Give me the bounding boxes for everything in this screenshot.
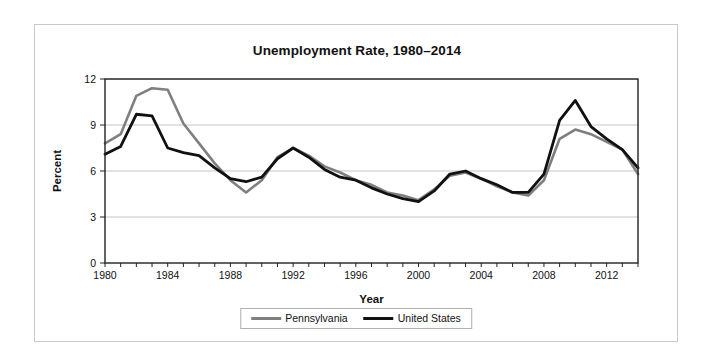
gridlines [105, 79, 638, 217]
legend-swatch-pennsylvania [251, 317, 281, 320]
y-tick-label: 0 [90, 257, 96, 269]
y-tick-label: 6 [90, 165, 96, 177]
y-axis-label: Percent [51, 150, 63, 192]
y-tick-label: 9 [90, 119, 96, 131]
line-chart: 036912 198019841988199219962000200420082… [35, 25, 679, 343]
legend-item-pennsylvania[interactable]: Pennsylvania [251, 312, 347, 324]
x-tick-label: 1984 [156, 269, 180, 281]
x-axis-label: Year [359, 293, 384, 305]
y-tick-label: 3 [90, 211, 96, 223]
y-tick-label: 12 [84, 73, 96, 85]
x-tick-label: 2008 [532, 269, 556, 281]
x-axis-ticks: 198019841988199219962000200420082012 [93, 263, 638, 281]
legend-label-united-states: United States [398, 312, 461, 324]
plot-area: 036912 198019841988199219962000200420082… [35, 25, 679, 343]
x-tick-label: 2000 [407, 269, 431, 281]
x-tick-label: 1992 [281, 269, 305, 281]
series-lines [105, 88, 638, 201]
legend-label-pennsylvania: Pennsylvania [285, 312, 347, 324]
x-tick-label: 1988 [219, 269, 243, 281]
chart-legend: Pennsylvania United States [240, 308, 472, 329]
legend-swatch-united-states [364, 317, 394, 320]
x-tick-label: 2004 [470, 269, 494, 281]
legend-item-united-states[interactable]: United States [364, 312, 461, 324]
x-tick-label: 1980 [93, 269, 117, 281]
x-tick-label: 2012 [595, 269, 619, 281]
y-axis-ticks: 036912 [84, 73, 105, 269]
series-line [105, 100, 638, 201]
x-tick-label: 1996 [344, 269, 368, 281]
figure-container: Unemployment Rate, 1980–2014 036912 1980… [34, 24, 678, 342]
series-line [105, 88, 638, 200]
